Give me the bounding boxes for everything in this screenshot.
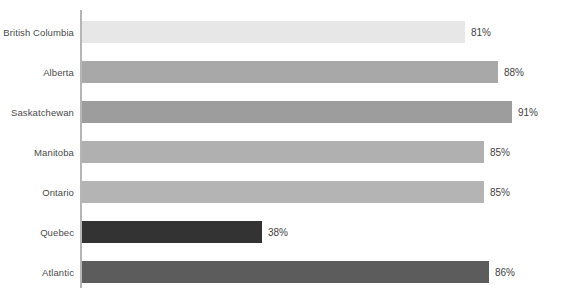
value-label-quebec: 38% (262, 221, 288, 243)
category-label-alberta: Alberta (0, 52, 74, 92)
value-label-ontario: 85% (484, 181, 510, 203)
category-label-quebec: Quebec (0, 212, 74, 252)
category-label-ontario: Ontario (0, 172, 74, 212)
bar-saskatchewan[interactable] (82, 101, 512, 123)
bar-row: British Columbia 81% (0, 12, 564, 52)
category-label-british-columbia: British Columbia (0, 12, 74, 52)
bar-quebec[interactable] (82, 221, 262, 243)
bar-manitoba[interactable] (82, 141, 484, 163)
category-label-saskatchewan: Saskatchewan (0, 92, 74, 132)
bar-row: Saskatchewan 91% (0, 92, 564, 132)
value-label-british-columbia: 81% (465, 21, 491, 43)
bar-atlantic[interactable] (82, 261, 489, 283)
bar-track: 38% (82, 212, 564, 252)
bar-row: Ontario 85% (0, 172, 564, 212)
bar-track: 91% (82, 92, 564, 132)
bar-ontario[interactable] (82, 181, 484, 203)
bar-row: Quebec 38% (0, 212, 564, 252)
value-label-atlantic: 86% (489, 261, 515, 283)
category-label-atlantic: Atlantic (0, 252, 74, 292)
bar-track: 85% (82, 172, 564, 212)
bar-row: Alberta 88% (0, 52, 564, 92)
horizontal-bar-chart: British Columbia 81% Alberta 88% Saskatc… (0, 0, 564, 305)
bar-row: Atlantic 86% (0, 252, 564, 292)
bar-track: 81% (82, 12, 564, 52)
value-label-manitoba: 85% (484, 141, 510, 163)
plot-area: British Columbia 81% Alberta 88% Saskatc… (0, 0, 564, 305)
category-label-manitoba: Manitoba (0, 132, 74, 172)
bar-alberta[interactable] (82, 61, 498, 83)
value-label-saskatchewan: 91% (512, 101, 538, 123)
bar-track: 88% (82, 52, 564, 92)
value-label-alberta: 88% (498, 61, 524, 83)
bar-row: Manitoba 85% (0, 132, 564, 172)
bar-track: 85% (82, 132, 564, 172)
bar-track: 86% (82, 252, 564, 292)
bar-british-columbia[interactable] (82, 21, 465, 43)
